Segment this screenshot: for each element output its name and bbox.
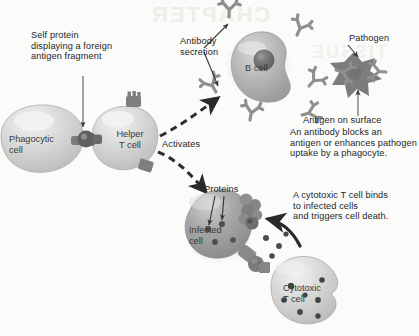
antibody-y-shape-icon bbox=[287, 14, 314, 40]
label-b-cell: B cell bbox=[245, 63, 267, 74]
label-self-protein: Self protein displaying a foreign antige… bbox=[31, 30, 141, 62]
label-antigen-on-surface: Antigen on surface bbox=[303, 115, 381, 126]
antibody-y-shape-icon bbox=[301, 65, 329, 93]
label-activates: Activates bbox=[162, 139, 200, 150]
antibody-y-shape-icon bbox=[239, 100, 264, 122]
label-antibody-secretion: Antibody secretion bbox=[180, 36, 240, 57]
label-infected-cell: Infected cell bbox=[189, 225, 237, 246]
protein-dot-icon bbox=[319, 277, 325, 283]
antibody-y-shape-icon bbox=[218, 0, 240, 17]
protein-dot-icon bbox=[263, 235, 269, 241]
label-cytotoxic-t-cell: Cytotoxic T cell bbox=[283, 283, 343, 304]
protein-dot-icon bbox=[276, 243, 282, 249]
granule-dots bbox=[263, 231, 289, 258]
label-proteins: Proteins bbox=[204, 184, 239, 195]
label-cytotoxic-note: A cytotoxic T cell binds to infected cel… bbox=[293, 190, 419, 222]
protein-dot-icon bbox=[297, 309, 303, 315]
label-antibody-note: An antibody blocks an antigen or enhance… bbox=[290, 127, 419, 159]
protein-dot-icon bbox=[269, 253, 275, 259]
label-helper-t-cell: Helper T cell bbox=[106, 129, 154, 150]
antibody-y-shape-icon bbox=[197, 71, 225, 98]
protein-dot-icon bbox=[315, 313, 320, 318]
activates-arrow-to-infected-cell bbox=[158, 152, 206, 192]
label-phagocytic-cell: Phagocytic cell bbox=[9, 134, 69, 155]
cell-contact-bridge bbox=[236, 243, 270, 273]
label-pathogen: Pathogen bbox=[349, 33, 389, 44]
immune-response-diagram: CHAPTER TISSUE bbox=[0, 0, 419, 336]
helper-t-cell-receptor-top bbox=[126, 91, 141, 107]
protein-dot-icon bbox=[283, 231, 288, 236]
activates-arrow-to-b-cell bbox=[160, 98, 218, 136]
